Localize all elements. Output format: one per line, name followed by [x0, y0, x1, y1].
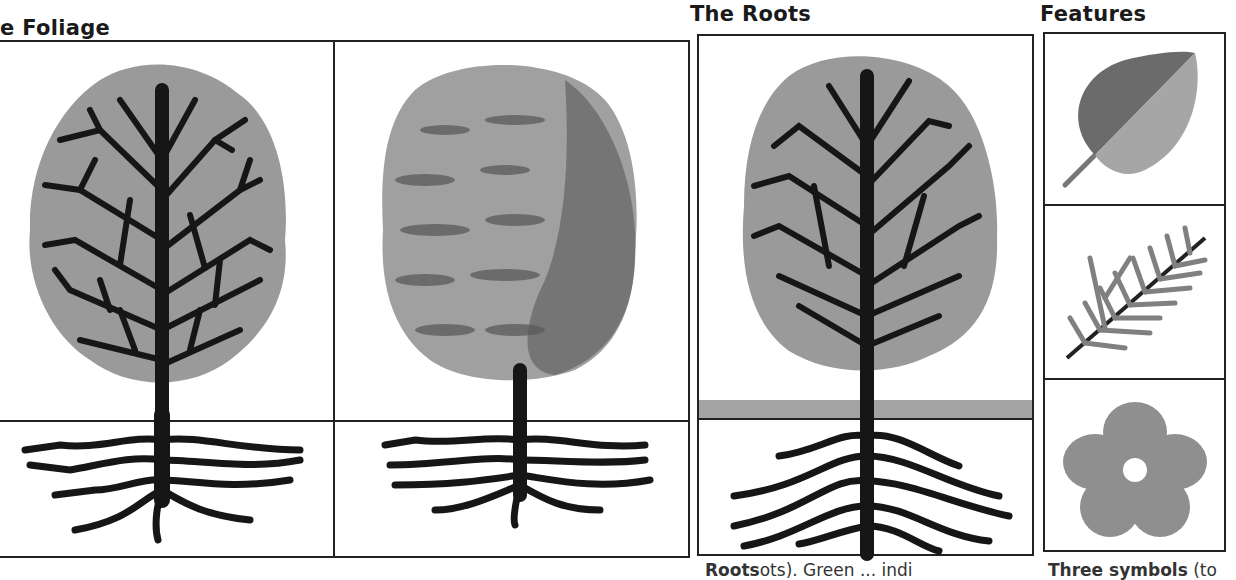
- flower-icon: [1060, 392, 1210, 542]
- tree-foliage-illustration: [335, 40, 690, 556]
- roots-caption-rest: ots). Green ... indi: [760, 560, 913, 580]
- heading-features: Features: [1040, 2, 1146, 26]
- features-caption-bold: Three symbols: [1048, 560, 1188, 580]
- leaf-icon: [1055, 45, 1215, 195]
- heading-foliage: e Foliage: [0, 16, 110, 40]
- features-divider-1: [1043, 204, 1226, 206]
- features-caption: Three symbols (to: [1048, 560, 1217, 580]
- heading-roots: The Roots: [690, 2, 811, 26]
- conifer-sprig-icon: [1055, 218, 1215, 368]
- features-divider-2: [1043, 378, 1226, 380]
- roots-caption-bold: Roots: [705, 560, 760, 580]
- tree-roots-illustration: [699, 36, 1032, 554]
- tree-branch-structure-illustration: [0, 40, 334, 556]
- features-caption-rest: (to: [1188, 560, 1217, 580]
- roots-caption: Rootsots). Green ... indi: [705, 560, 913, 580]
